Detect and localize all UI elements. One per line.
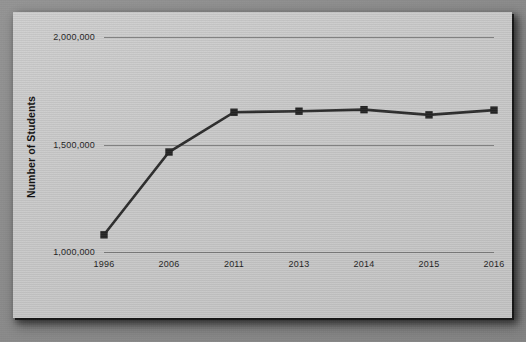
series-markers-group [100, 106, 497, 239]
plot-area: Number of Students 2,000,0001,500,0001,0… [13, 12, 512, 318]
screenshot-root: Number of Students 2,000,0001,500,0001,0… [0, 0, 526, 342]
data-point-marker [425, 111, 432, 118]
series-line-number-of-students [104, 110, 494, 235]
data-point-marker [165, 148, 172, 155]
data-point-marker [100, 231, 107, 238]
data-point-marker [360, 106, 367, 113]
chart-panel: Number of Students 2,000,0001,500,0001,0… [13, 12, 512, 318]
data-point-marker [295, 107, 302, 114]
data-point-marker [230, 109, 237, 116]
data-point-marker [490, 106, 497, 113]
series-svg [13, 12, 512, 318]
